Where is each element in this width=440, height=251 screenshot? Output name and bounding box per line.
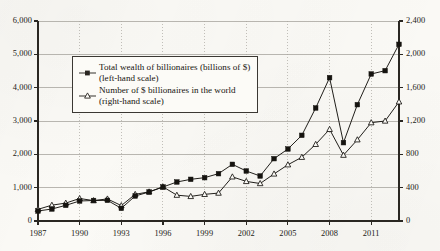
- data-point-wealth: [397, 42, 402, 47]
- data-point-count: [230, 174, 236, 179]
- data-point-count: [271, 171, 277, 176]
- filled-square-marker: [79, 64, 96, 74]
- legend-entry: Total wealth of billionaires (billions o…: [79, 62, 250, 83]
- y-axis-right-tick-label: 1,200: [406, 117, 440, 125]
- data-point-wealth: [50, 207, 55, 212]
- open-triangle-marker: [79, 87, 96, 97]
- legend-label: Number of $ billionaires in the world(ri…: [99, 85, 236, 106]
- chart-plot-area: [0, 0, 440, 251]
- data-point-wealth: [230, 162, 235, 167]
- x-axis-tick-label: 2008: [321, 230, 338, 238]
- y-axis-right-tick-label: 800: [406, 150, 440, 158]
- data-point-wealth: [327, 75, 332, 80]
- x-axis-tick-label: 2005: [279, 230, 296, 238]
- data-point-wealth: [355, 102, 360, 107]
- legend-label-line2: (left-hand scale): [99, 73, 250, 84]
- y-axis-right-tick-label: 2,000: [406, 50, 440, 58]
- x-axis-tick-label: 1996: [154, 230, 171, 238]
- data-point-wealth: [202, 175, 207, 180]
- data-point-wealth: [216, 171, 221, 176]
- data-point-wealth: [300, 133, 305, 138]
- x-axis-tick-label: 1999: [196, 230, 213, 238]
- y-axis-right-tick-label: 2,400: [406, 17, 440, 25]
- y-axis-left-tick-label: 2,000: [0, 150, 32, 158]
- y-axis-left-tick-label: 6,000: [0, 17, 32, 25]
- y-axis-right-tick-label: 0: [406, 217, 440, 225]
- data-point-count: [285, 162, 291, 167]
- chart-figure: 01,0002,0003,0004,0005,0006,00004008001,…: [0, 0, 440, 251]
- y-axis-left-tick-label: 5,000: [0, 50, 32, 58]
- data-point-wealth: [272, 156, 277, 161]
- data-point-wealth: [36, 209, 41, 214]
- x-axis-tick-label: 2011: [363, 230, 380, 238]
- legend-label-line2: (right-hand scale): [99, 96, 236, 107]
- legend-entry: Number of $ billionaires in the world(ri…: [79, 85, 250, 106]
- y-axis-left-tick-label: 3,000: [0, 117, 32, 125]
- data-point-wealth: [286, 147, 291, 152]
- data-point-wealth: [383, 68, 388, 73]
- data-point-wealth: [161, 185, 166, 190]
- data-point-wealth: [91, 198, 96, 203]
- legend-label: Total wealth of billionaires (billions o…: [99, 62, 250, 83]
- chart-legend: Total wealth of billionaires (billions o…: [72, 56, 258, 113]
- legend-label-line1: Total wealth of billionaires (billions o…: [99, 62, 250, 73]
- data-point-wealth: [313, 106, 318, 111]
- y-axis-right-tick-label: 1,600: [406, 83, 440, 91]
- data-point-wealth: [175, 180, 180, 185]
- y-axis-left-tick-label: 0: [0, 217, 32, 225]
- data-point-wealth: [63, 203, 68, 208]
- data-point-count: [396, 99, 402, 104]
- data-point-wealth: [147, 190, 152, 195]
- data-point-wealth: [188, 177, 193, 182]
- y-axis-left-tick-label: 4,000: [0, 83, 32, 91]
- x-axis-tick-label: 1993: [113, 230, 130, 238]
- y-axis-left-tick-label: 1,000: [0, 183, 32, 191]
- data-point-wealth: [119, 206, 124, 211]
- data-point-wealth: [341, 140, 346, 145]
- data-point-wealth: [258, 174, 263, 179]
- data-point-wealth: [369, 72, 374, 77]
- data-point-wealth: [244, 169, 249, 174]
- data-point-wealth: [105, 198, 110, 203]
- x-axis-tick-label: 2002: [238, 230, 255, 238]
- data-point-wealth: [133, 194, 138, 199]
- data-point-wealth: [77, 199, 82, 204]
- x-axis-tick-label: 1990: [71, 230, 88, 238]
- data-point-count: [327, 126, 333, 131]
- legend-label-line1: Number of $ billionaires in the world: [99, 85, 236, 96]
- data-point-count: [174, 192, 180, 197]
- x-axis-tick-label: 1987: [29, 230, 46, 238]
- y-axis-right-tick-label: 400: [406, 183, 440, 191]
